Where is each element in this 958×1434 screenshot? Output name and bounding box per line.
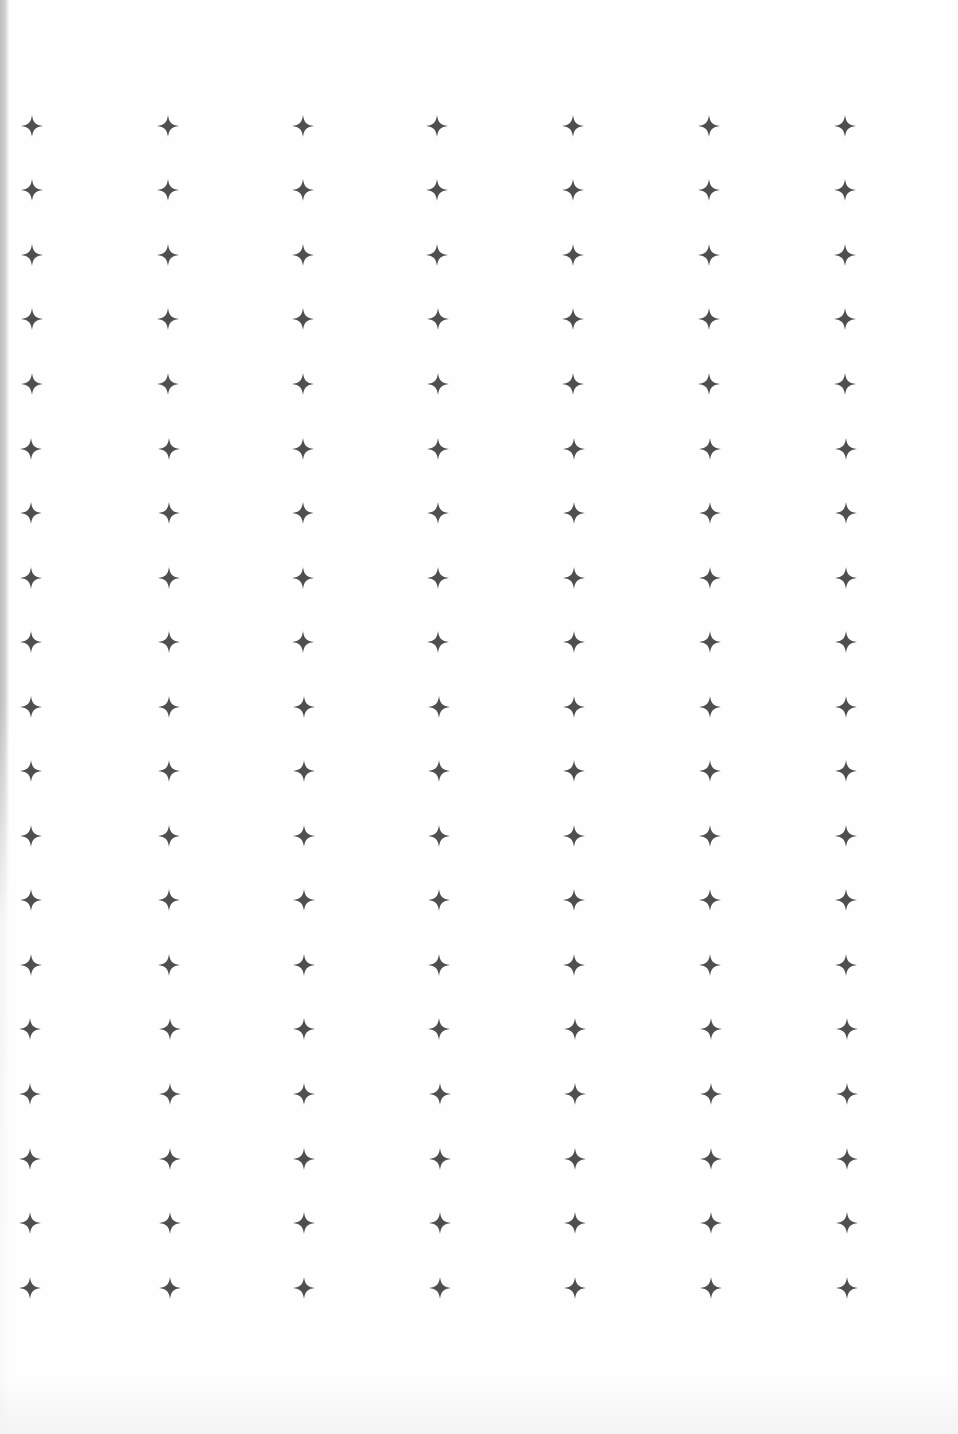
- four-point-star-icon: [158, 1147, 182, 1171]
- four-point-star-icon: [427, 888, 451, 912]
- four-point-star-icon: [834, 437, 858, 461]
- four-point-star-icon: [292, 1276, 316, 1300]
- four-point-star-icon: [156, 114, 180, 138]
- four-point-star-icon: [835, 1276, 859, 1300]
- four-point-star-icon: [20, 307, 44, 331]
- four-point-star-icon: [834, 695, 858, 719]
- four-point-star-icon: [291, 372, 315, 396]
- four-point-star-icon: [426, 307, 450, 331]
- four-point-star-icon: [158, 1276, 182, 1300]
- four-point-star-icon: [19, 437, 43, 461]
- four-point-star-icon: [20, 372, 44, 396]
- four-point-star-icon: [20, 178, 44, 202]
- four-point-star-icon: [428, 1082, 452, 1106]
- four-point-star-icon: [697, 178, 721, 202]
- four-point-star-icon: [292, 1082, 316, 1106]
- four-point-star-icon: [835, 1147, 859, 1171]
- four-point-star-icon: [291, 501, 315, 525]
- four-point-star-icon: [157, 759, 181, 783]
- four-point-star-icon: [834, 824, 858, 848]
- four-point-star-icon: [562, 501, 586, 525]
- four-point-star-icon: [425, 114, 449, 138]
- four-point-star-icon: [157, 824, 181, 848]
- four-point-star-icon: [561, 372, 585, 396]
- four-point-star-icon: [562, 888, 586, 912]
- four-point-star-icon: [19, 824, 43, 848]
- four-point-star-icon: [292, 824, 316, 848]
- four-point-star-icon: [562, 437, 586, 461]
- four-point-star-icon: [833, 372, 857, 396]
- four-point-star-icon: [563, 1017, 587, 1041]
- four-point-star-icon: [698, 566, 722, 590]
- four-point-star-icon: [834, 953, 858, 977]
- four-point-star-icon: [699, 1276, 723, 1300]
- four-point-star-icon: [292, 888, 316, 912]
- four-point-star-icon: [563, 1276, 587, 1300]
- four-point-star-icon: [426, 566, 450, 590]
- four-point-star-icon: [18, 1276, 42, 1300]
- four-point-star-icon: [428, 1211, 452, 1235]
- four-point-star-icon: [19, 953, 43, 977]
- four-point-star-icon: [428, 1147, 452, 1171]
- four-point-star-icon: [425, 243, 449, 267]
- four-point-star-icon: [834, 566, 858, 590]
- four-point-star-icon: [291, 437, 315, 461]
- four-point-star-icon: [292, 759, 316, 783]
- four-point-star-icon: [561, 307, 585, 331]
- four-point-star-icon: [292, 1147, 316, 1171]
- four-point-star-icon: [833, 114, 857, 138]
- four-point-star-icon: [427, 953, 451, 977]
- four-point-star-icon: [698, 437, 722, 461]
- four-point-star-icon: [699, 1017, 723, 1041]
- four-point-star-icon: [18, 1017, 42, 1041]
- four-point-star-icon: [562, 759, 586, 783]
- four-point-star-icon: [698, 824, 722, 848]
- four-point-star-icon: [157, 566, 181, 590]
- four-point-star-icon: [697, 307, 721, 331]
- four-point-star-icon: [292, 953, 316, 977]
- four-point-star-icon: [157, 953, 181, 977]
- four-point-star-icon: [561, 243, 585, 267]
- four-point-star-icon: [426, 630, 450, 654]
- four-point-star-icon: [292, 1017, 316, 1041]
- four-point-star-icon: [834, 888, 858, 912]
- four-point-star-icon: [562, 824, 586, 848]
- four-point-star-icon: [562, 695, 586, 719]
- four-point-star-icon: [562, 630, 586, 654]
- four-point-star-icon: [158, 1017, 182, 1041]
- four-point-star-icon: [18, 1082, 42, 1106]
- four-point-star-icon: [19, 759, 43, 783]
- four-point-star-icon: [561, 178, 585, 202]
- four-point-star-icon: [19, 630, 43, 654]
- four-point-star-icon: [157, 501, 181, 525]
- scanned-page: [0, 0, 958, 1434]
- four-point-star-icon: [19, 501, 43, 525]
- four-point-star-icon: [291, 307, 315, 331]
- four-point-star-icon: [835, 1082, 859, 1106]
- four-point-star-icon: [19, 695, 43, 719]
- four-point-star-icon: [157, 630, 181, 654]
- four-point-star-icon: [156, 307, 180, 331]
- four-point-star-icon: [425, 178, 449, 202]
- four-point-star-icon: [697, 243, 721, 267]
- four-point-star-icon: [19, 888, 43, 912]
- four-point-star-icon: [563, 1082, 587, 1106]
- four-point-star-icon: [292, 1211, 316, 1235]
- four-point-star-icon: [698, 501, 722, 525]
- four-point-star-icon: [427, 759, 451, 783]
- four-point-star-icon: [426, 501, 450, 525]
- four-point-star-icon: [562, 566, 586, 590]
- star-grid: [0, 0, 958, 1434]
- four-point-star-icon: [697, 114, 721, 138]
- four-point-star-icon: [699, 1211, 723, 1235]
- four-point-star-icon: [833, 178, 857, 202]
- four-point-star-icon: [156, 372, 180, 396]
- four-point-star-icon: [427, 824, 451, 848]
- four-point-star-icon: [427, 1017, 451, 1041]
- four-point-star-icon: [563, 1147, 587, 1171]
- four-point-star-icon: [158, 1211, 182, 1235]
- four-point-star-icon: [156, 178, 180, 202]
- four-point-star-icon: [292, 695, 316, 719]
- four-point-star-icon: [833, 243, 857, 267]
- four-point-star-icon: [428, 1276, 452, 1300]
